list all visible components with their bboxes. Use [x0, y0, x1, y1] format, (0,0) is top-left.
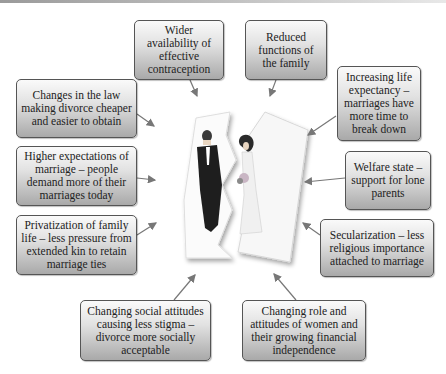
- arrow-women: [274, 274, 296, 300]
- cause-box-privatization: Privatization of family life – less pres…: [16, 215, 137, 275]
- cause-box-social-attitudes: Changing social attitudes causing less s…: [80, 300, 211, 361]
- cause-text: Changing social attitudes causing less s…: [85, 305, 206, 357]
- arrow-contraception: [190, 80, 197, 96]
- arrow-social-attitudes: [174, 275, 195, 300]
- arrow-law: [137, 114, 154, 126]
- cause-text: Secularization – less religious importan…: [325, 229, 429, 268]
- cause-text: Privatization of family life – less pres…: [21, 219, 132, 271]
- cause-box-women: Changing role and attitudes of women and…: [242, 300, 366, 361]
- arrow-functions: [270, 80, 276, 96]
- cause-box-welfare: Welfare state – support for lone parents: [345, 151, 431, 210]
- cause-box-law: Changes in the law making divorce cheape…: [16, 79, 137, 138]
- arrow-expectations: [137, 178, 155, 180]
- cause-box-contraception: Wider availability of effective contrace…: [134, 20, 224, 80]
- cause-text: Wider availability of effective contrace…: [139, 24, 219, 76]
- cause-text: Changes in the law making divorce cheape…: [21, 89, 132, 128]
- cause-box-secularization: Secularization – less religious importan…: [320, 219, 434, 277]
- cause-text: Reduced functions of the family: [250, 31, 322, 70]
- cause-text: Changing role and attitudes of women and…: [247, 305, 361, 357]
- cause-box-expectations: Higher expectations of marriage – people…: [16, 146, 137, 206]
- arrow-secularization: [303, 223, 320, 235]
- cause-text: Higher expectations of marriage – people…: [21, 150, 132, 202]
- cause-text: Increasing life expectancy – marriages h…: [342, 71, 416, 136]
- cause-box-life-expectancy: Increasing life expectancy – marriages h…: [337, 66, 421, 141]
- arrow-privatization: [137, 223, 156, 235]
- cause-text: Welfare state – support for lone parents: [350, 161, 426, 200]
- arrow-welfare: [305, 178, 345, 182]
- cause-box-functions: Reduced functions of the family: [245, 20, 327, 80]
- arrow-life-expectancy: [308, 116, 336, 135]
